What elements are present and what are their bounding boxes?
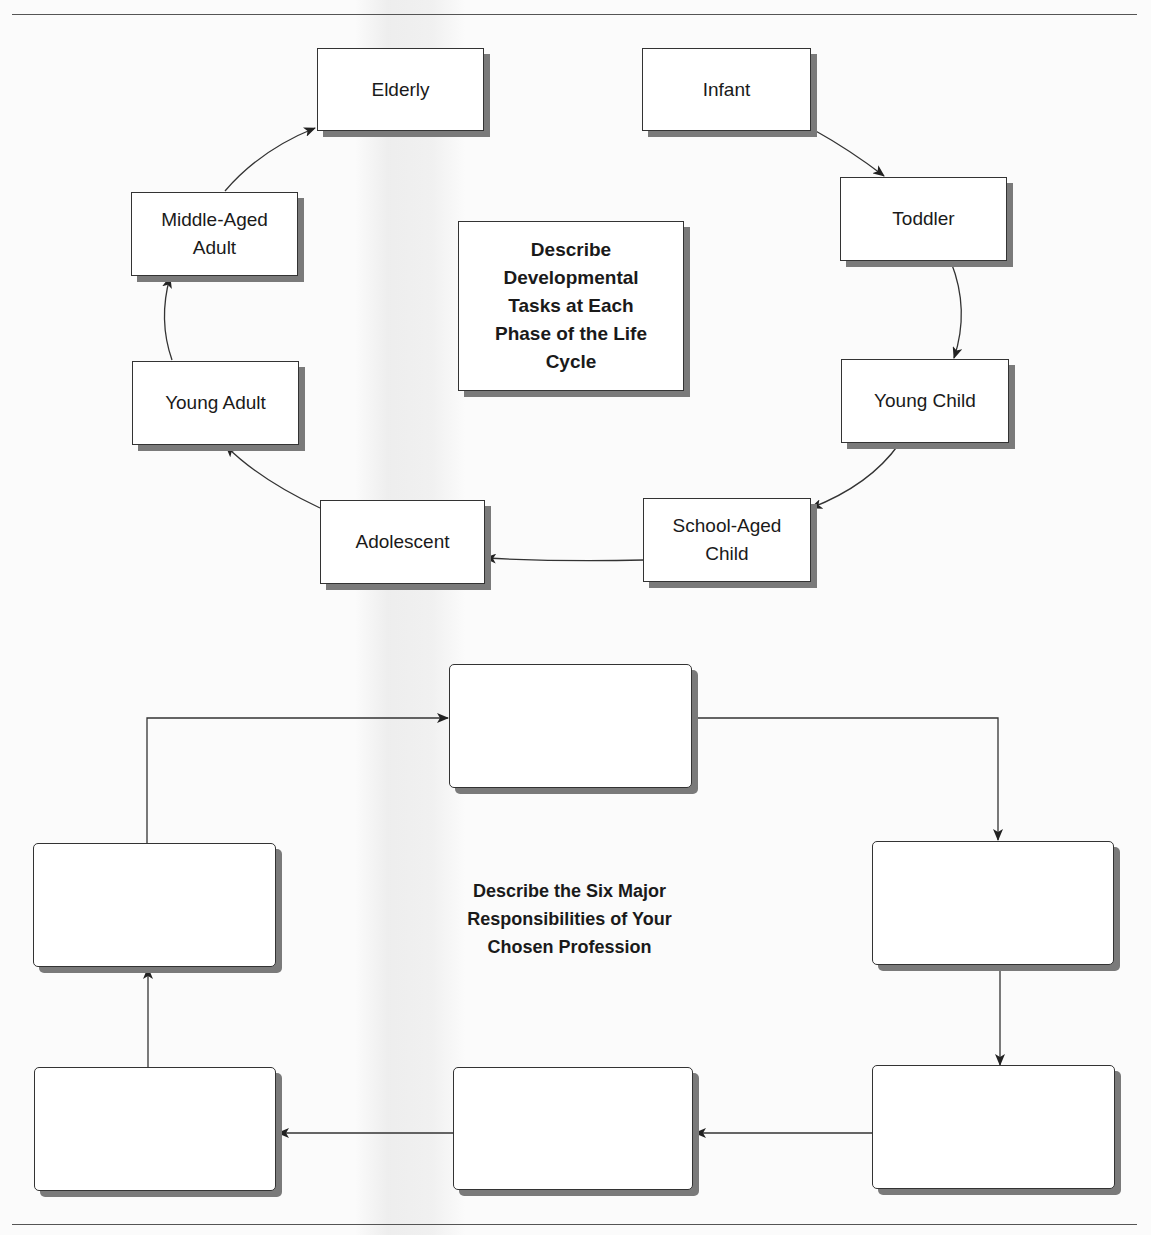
responsibility-box-6[interactable] [33, 843, 276, 967]
responsibility-box-5[interactable] [34, 1067, 276, 1191]
responsibilities-title: Describe the Six Major Responsibilities … [432, 877, 707, 961]
stage-label: Infant [703, 76, 751, 104]
life-cycle-title: Describe Developmental Tasks at Each Pha… [495, 236, 647, 376]
life-cycle-title-box: Describe Developmental Tasks at Each Pha… [458, 221, 684, 391]
stage-box-elderly: Elderly [317, 48, 484, 131]
responsibility-box-2[interactable] [872, 841, 1114, 965]
responsibility-box-1[interactable] [449, 664, 692, 788]
stage-label: Middle-Aged Adult [161, 206, 268, 262]
stage-box-school-aged-child: School-Aged Child [643, 498, 811, 582]
stage-label: School-Aged Child [673, 512, 782, 568]
stage-label: Young Child [874, 387, 976, 415]
stage-label: Young Adult [165, 389, 266, 417]
stage-box-infant: Infant [642, 48, 811, 131]
stage-box-middle-aged-adult: Middle-Aged Adult [131, 192, 298, 276]
stage-box-young-adult: Young Adult [132, 361, 299, 445]
stage-label: Elderly [371, 76, 429, 104]
stage-box-young-child: Young Child [841, 359, 1009, 443]
stage-label: Adolescent [355, 528, 449, 556]
responsibility-box-3[interactable] [872, 1065, 1115, 1189]
stage-label: Toddler [892, 205, 954, 233]
responsibility-box-4[interactable] [453, 1067, 693, 1190]
stage-box-toddler: Toddler [840, 177, 1007, 261]
stage-box-adolescent: Adolescent [320, 500, 485, 584]
